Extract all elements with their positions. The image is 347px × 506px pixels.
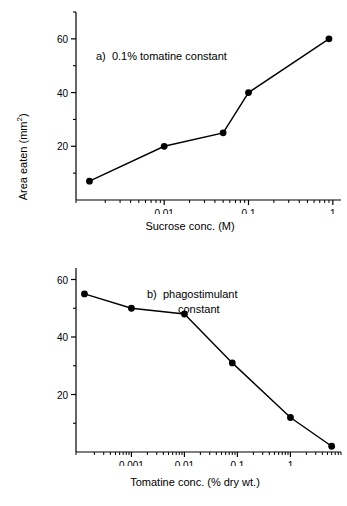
y-tick-label: 60 <box>57 275 69 286</box>
data-point <box>161 143 168 150</box>
data-point <box>326 35 333 42</box>
x-tick-label: 0.01 <box>154 208 174 214</box>
y-tick-label: 20 <box>57 141 69 152</box>
y-tick-label: 60 <box>57 34 69 45</box>
data-point <box>287 414 294 421</box>
y-tick-label: 40 <box>57 88 69 99</box>
data-point <box>220 129 227 136</box>
figure-container: Area eaten (mm2) 2040600.010.11 a) 0.1% … <box>0 0 347 506</box>
x-tick-label: 0.1 <box>230 460 244 466</box>
chart-panel-a: 2040600.010.11 <box>56 4 347 214</box>
data-point <box>245 89 252 96</box>
data-line <box>84 294 331 446</box>
x-tick-label: 1 <box>330 208 336 214</box>
y-axis-label-tail: ) <box>17 113 29 117</box>
data-point <box>229 359 236 366</box>
data-point <box>86 178 93 185</box>
data-point <box>128 305 135 312</box>
x-tick-label: 0.1 <box>242 208 256 214</box>
data-point <box>328 443 335 450</box>
x-tick-label: 1 <box>288 460 294 466</box>
chart-b-title-line2: constant <box>178 303 220 315</box>
y-axis-label: Area eaten (mm2) <box>15 82 29 232</box>
x-tick-label: 0.001 <box>119 460 144 466</box>
chart-a-title: a) 0.1% tomatine constant <box>96 50 227 62</box>
chart-a-x-axis-label: Sucrose conc. (M) <box>100 220 280 232</box>
chart-a-plot: 2040600.010.11 <box>56 4 347 214</box>
y-axis-label-text: Area eaten (mm <box>17 121 29 200</box>
y-tick-label: 40 <box>57 332 69 343</box>
data-point <box>81 290 88 297</box>
chart-b-title: b) phagostimulant <box>147 288 238 300</box>
chart-b-x-axis-label: Tomatine conc. (% dry wt.) <box>85 476 305 488</box>
y-axis-label-exponent: 2 <box>15 117 24 121</box>
y-tick-label: 20 <box>57 390 69 401</box>
x-tick-label: 0.01 <box>175 460 195 466</box>
